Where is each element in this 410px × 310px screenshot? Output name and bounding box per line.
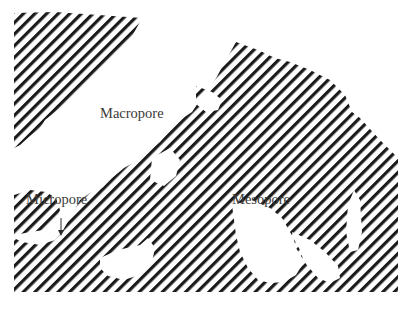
pore-diagram (0, 0, 410, 310)
micropore-label: Micropore (26, 192, 87, 207)
macropore-label: Macropore (100, 106, 164, 121)
mesopore-label: Mesopore (232, 192, 290, 207)
solid-matrix-top-left (14, 12, 142, 148)
